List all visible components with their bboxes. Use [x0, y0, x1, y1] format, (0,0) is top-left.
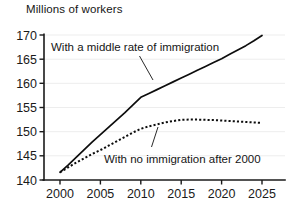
gridlines [44, 35, 285, 156]
y-tick-label-165: 165 [16, 53, 37, 67]
y-tick-label-145: 145 [16, 149, 37, 163]
y-tick-label-140: 140 [16, 174, 37, 188]
y-tick-label-155: 155 [16, 101, 37, 115]
x-tick-label-2015: 2015 [167, 187, 195, 201]
y-tick-label-170: 170 [16, 29, 37, 43]
y-axis: 170 165 160 155 150 145 140 [16, 29, 44, 188]
x-tick-label-2010: 2010 [127, 187, 155, 201]
series-line-middle-immigration [60, 35, 262, 172]
x-tick-label-2020: 2020 [208, 187, 236, 201]
y-tick-label-150: 150 [16, 125, 37, 139]
y-tick-label-160: 160 [16, 77, 37, 91]
line-chart-plot: 170 165 160 155 150 145 140 2000 2005 20… [0, 0, 295, 211]
leader-line-no-immigration [152, 127, 159, 147]
x-tick-label-2000: 2000 [46, 187, 74, 201]
x-tick-label-2025: 2025 [248, 187, 276, 201]
x-tick-label-2005: 2005 [86, 187, 114, 201]
series-label-middle-immigration: With a middle rate of immigration [51, 41, 219, 53]
series-label-no-immigration: With no immigration after 2000 [104, 153, 261, 165]
x-axis: 2000 2005 2010 2015 2020 2025 [43, 180, 285, 201]
chart-figure: Millions of workers 170 165 160 155 150 … [0, 0, 295, 211]
